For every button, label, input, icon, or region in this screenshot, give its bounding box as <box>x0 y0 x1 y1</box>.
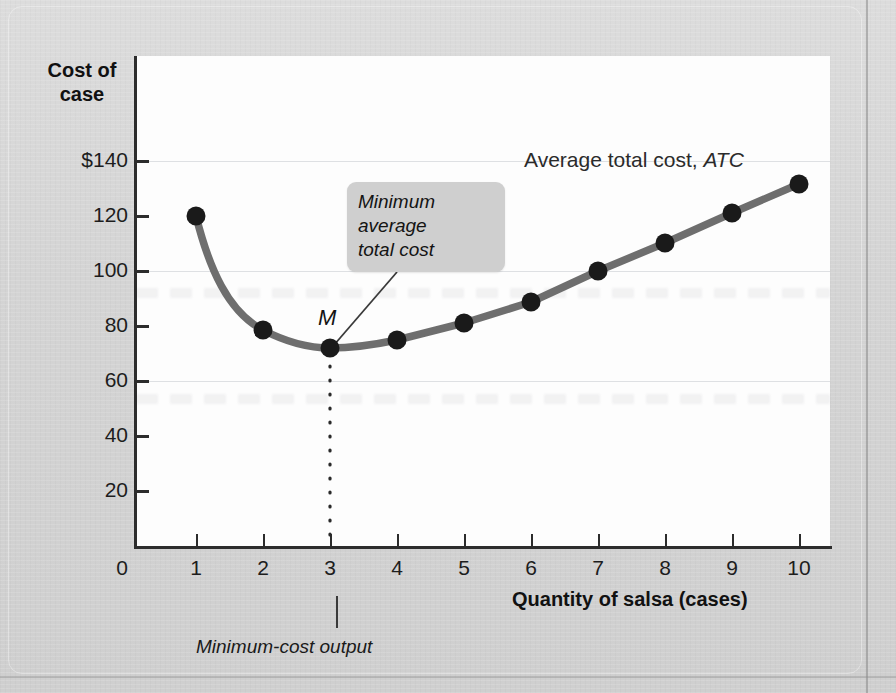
x-tick-label-9: 9 <box>712 556 752 580</box>
minimum-point-label: M <box>318 305 336 331</box>
x-tick-5 <box>464 534 466 547</box>
x-tick-8 <box>665 534 667 547</box>
x-tick-9 <box>732 534 734 547</box>
x-axis-title: Quantity of salsa (cases) <box>512 588 748 611</box>
x-tick-6 <box>531 534 533 547</box>
x-tick-label-6: 6 <box>511 556 551 580</box>
x-tick-10 <box>799 534 801 547</box>
minimum-cost-output-note: Minimum-cost output <box>196 636 372 658</box>
x-tick-label-1: 1 <box>176 556 216 580</box>
series-label: Average total cost, ATC <box>524 148 744 172</box>
y-axis-title-line1: Cost of <box>36 58 128 82</box>
figure-container: Cost of case $140 120 100 80 60 40 20 0 … <box>0 0 896 693</box>
y-tick-label-20: 20 <box>36 478 128 502</box>
gridline-60 <box>136 381 830 382</box>
y-tick-label-120: 120 <box>36 203 128 227</box>
scan-artifact <box>136 394 830 404</box>
x-tick-3 <box>330 534 332 547</box>
y-tick-40 <box>136 435 149 438</box>
x-tick-label-3: 3 <box>310 556 350 580</box>
minimum-average-total-cost-callout: Minimum average total cost <box>347 182 505 272</box>
x-tick-1 <box>196 534 198 547</box>
x-tick-label-10: 10 <box>779 556 819 580</box>
x-axis-line <box>134 546 832 549</box>
minimum-cost-output-tick <box>336 596 338 628</box>
callout-line-1: Minimum <box>358 190 494 214</box>
scan-artifact <box>136 288 830 298</box>
y-axis-title: Cost of case <box>36 58 128 107</box>
y-tick-100 <box>136 270 149 273</box>
x-tick-2 <box>263 534 265 547</box>
plot-area <box>136 56 830 546</box>
page-edge-right <box>866 0 868 693</box>
y-axis-line <box>134 56 137 548</box>
x-tick-4 <box>397 534 399 547</box>
y-tick-label-100: 100 <box>36 258 128 282</box>
series-label-text: Average total cost, <box>524 148 698 171</box>
page-edge-bottom <box>0 676 896 678</box>
y-tick-label-0: 0 <box>36 556 128 580</box>
y-tick-60 <box>136 380 149 383</box>
y-tick-label-40: 40 <box>36 423 128 447</box>
y-tick-120 <box>136 215 149 218</box>
x-tick-label-8: 8 <box>645 556 685 580</box>
y-tick-20 <box>136 490 149 493</box>
y-tick-label-140: $140 <box>36 148 128 172</box>
y-tick-label-60: 60 <box>36 368 128 392</box>
x-tick-label-7: 7 <box>578 556 618 580</box>
callout-line-3: total cost <box>358 238 494 262</box>
series-label-abbr: ATC <box>703 148 743 171</box>
x-tick-label-2: 2 <box>243 556 283 580</box>
x-tick-7 <box>598 534 600 547</box>
y-tick-label-80: 80 <box>36 313 128 337</box>
x-tick-label-4: 4 <box>377 556 417 580</box>
y-tick-140 <box>136 160 149 163</box>
y-axis-title-line2: case <box>36 82 128 106</box>
y-tick-80 <box>136 325 149 328</box>
callout-line-2: average <box>358 214 494 238</box>
x-tick-label-5: 5 <box>444 556 484 580</box>
